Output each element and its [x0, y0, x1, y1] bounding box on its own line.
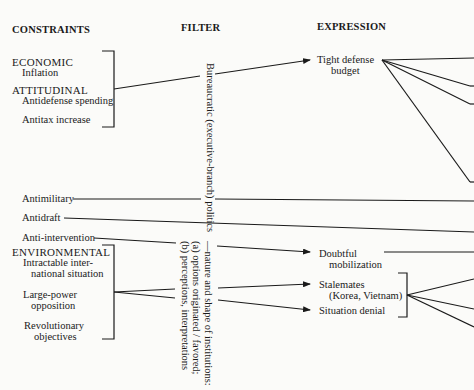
constraint-antidefense-spending: Antidefense spending	[22, 96, 113, 107]
filter-perceptions: (b) perceptions, interpretations	[180, 241, 191, 370]
expression-tight-defense-line1: Tight defense	[317, 55, 374, 66]
filter-institutions: —nature and shape of institutions:	[203, 241, 214, 386]
expression-tight-defense-line2: budget	[331, 66, 360, 77]
constraint-revolutionary-line1: Revolutionary	[24, 321, 84, 332]
filter-options: (a) options originated / favored;	[191, 241, 202, 375]
constraint-anti-intervention: Anti-intervention	[22, 233, 95, 244]
expression-situation-denial: Situation denial	[319, 306, 385, 317]
constraint-antitax-increase: Antitax increase	[22, 115, 91, 126]
constraint-intractable-line1: Intractable inter-	[23, 258, 93, 269]
header-expression: EXPRESSION	[317, 22, 386, 33]
constraint-inflation: Inflation	[22, 68, 58, 79]
constraint-intractable-line2: national situation	[31, 269, 104, 280]
constraints-environmental-bracket	[102, 245, 114, 339]
constraint-large-power-line1: Large-power	[23, 290, 77, 301]
constraint-antimilitary: Antimilitary	[22, 194, 74, 205]
expression-stalemates-line1: Stalemates	[319, 280, 365, 291]
constraint-large-power-line2: opposition	[31, 301, 75, 312]
constraints-filter-expression-diagram: CONSTRAINTS FILTER EXPRESSION ECONOMIC I…	[0, 0, 474, 390]
constraints-top-bracket	[102, 51, 114, 127]
expression-doubtful-line1: Doubtful	[319, 249, 357, 260]
header-constraints: CONSTRAINTS	[12, 25, 90, 36]
constraint-antidraft: Antidraft	[22, 213, 61, 224]
filter-bureaucratic-politics: Bureaucratic (executive-branch) politics	[205, 63, 216, 232]
expression-doubtful-line2: mobilization	[329, 260, 382, 271]
header-filter: FILTER	[181, 23, 220, 34]
constraint-revolutionary-line2: objectives	[34, 332, 77, 343]
expression-stalemates-line2: (Korea, Vietnam)	[329, 291, 402, 302]
